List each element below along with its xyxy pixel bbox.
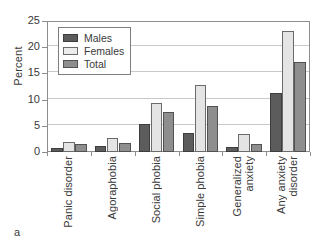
x-axis-tick-mark <box>179 152 180 156</box>
x-axis-label-line: anxiety <box>243 156 255 192</box>
legend-swatch <box>63 34 78 42</box>
y-axis-tick-label: 20 <box>0 40 40 52</box>
bar <box>95 146 107 152</box>
bar <box>270 93 282 152</box>
x-axis-label: Any anxietydisorder <box>275 156 301 242</box>
x-axis-label: Social phobia <box>150 156 163 242</box>
bar-group <box>226 21 262 152</box>
x-axis-label-line: Agoraphobia <box>106 156 118 220</box>
bar <box>75 144 87 152</box>
x-axis-label-line: Social phobia <box>150 156 162 223</box>
bar <box>119 143 131 152</box>
bar-group <box>183 21 219 152</box>
bar <box>51 148 63 152</box>
legend-swatch <box>63 60 78 68</box>
legend-label: Total <box>84 59 106 69</box>
bar <box>226 147 238 152</box>
bar <box>207 106 219 152</box>
bar <box>107 138 119 152</box>
x-axis-label-line: Generalized <box>231 156 243 216</box>
legend-label: Males <box>84 33 112 43</box>
bar <box>163 112 175 152</box>
x-axis-label: Agoraphobia <box>106 156 119 242</box>
bar <box>139 124 151 152</box>
figure-panel-a: Percent 0510152025 Panic disorderAgoraph… <box>0 0 321 246</box>
legend-swatch <box>63 47 78 55</box>
x-axis-tick-mark <box>266 152 267 156</box>
panel-label: a <box>14 226 20 238</box>
legend: MalesFemalesTotal <box>58 27 131 75</box>
x-axis-label: Generalizedanxiety <box>231 156 257 242</box>
x-axis-tick-mark <box>135 152 136 156</box>
bar <box>183 133 195 152</box>
y-axis-tick-label: 25 <box>0 14 40 26</box>
x-axis-label: Panic disorder <box>62 156 75 242</box>
x-axis-label-line: Simple phobia <box>194 156 206 227</box>
legend-item: Females <box>63 45 124 57</box>
bar-group <box>139 21 175 152</box>
x-axis-label: Simple phobia <box>194 156 207 242</box>
bar <box>151 103 163 152</box>
legend-label: Females <box>84 46 124 56</box>
x-axis-label-line: Panic disorder <box>62 156 74 228</box>
x-axis-label-line: disorder <box>287 156 299 197</box>
x-axis-tick-mark <box>222 152 223 156</box>
y-axis-tick-label: 10 <box>0 93 40 105</box>
bar <box>251 144 263 152</box>
legend-item: Males <box>63 32 124 44</box>
y-axis-tick-label: 0 <box>0 145 40 157</box>
x-axis-tick-mark <box>310 152 311 156</box>
bar-group <box>270 21 306 152</box>
bar <box>294 62 306 152</box>
legend-item: Total <box>63 58 124 70</box>
y-axis-tick-label: 5 <box>0 119 40 131</box>
x-axis-label-line: Any anxiety <box>275 156 287 214</box>
x-axis-tick-mark <box>91 152 92 156</box>
bar <box>238 134 250 152</box>
x-axis-tick-mark <box>47 152 48 156</box>
bar <box>282 31 294 152</box>
y-axis-tick-label: 15 <box>0 66 40 78</box>
bar <box>195 85 207 152</box>
bar <box>63 142 75 152</box>
